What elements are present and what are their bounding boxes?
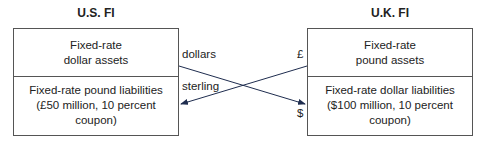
- dollars-to-uk-arrow: [179, 66, 305, 104]
- sterling-to-us-arrow: [181, 66, 307, 104]
- swap-arrows: [0, 0, 485, 145]
